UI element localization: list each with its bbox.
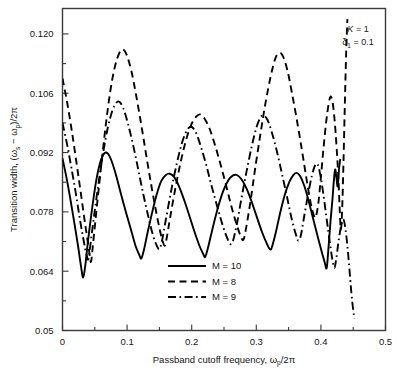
x-tick-label: 0 — [60, 336, 65, 347]
x-tick-label: 0.5 — [379, 336, 392, 347]
y-tick-label: 0.064 — [30, 266, 54, 277]
x-tick-label: 0.3 — [250, 336, 263, 347]
y-tick-label: 0.05 — [35, 325, 54, 336]
y-tick-label: 0.106 — [30, 88, 54, 99]
legend-label-3: M = 9 — [212, 291, 236, 302]
y-tick-label: 0.120 — [30, 28, 54, 39]
chart-figure: 00.10.20.30.40.5 0.050.0640.0780.0920.10… — [0, 0, 397, 371]
annotation-delta1: δ1 = 0.1 — [342, 37, 373, 49]
legend-label-2: M = 8 — [212, 276, 236, 287]
y-tick-label: 0.092 — [30, 147, 54, 158]
transition-width-line-chart: 00.10.20.30.40.5 0.050.0640.0780.0920.10… — [0, 0, 397, 371]
x-tick-label: 0.2 — [185, 336, 198, 347]
x-tick-label: 0.4 — [314, 336, 327, 347]
annotation-K: K = 1 — [347, 24, 368, 34]
x-tick-label: 0.1 — [120, 336, 133, 347]
legend-label-1: M = 10 — [212, 260, 241, 271]
y-tick-label: 0.078 — [30, 206, 54, 217]
